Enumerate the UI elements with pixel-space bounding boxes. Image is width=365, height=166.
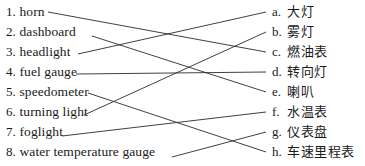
list-item-left-7[interactable]: 7. foglight [6,122,63,142]
list-item-left-1[interactable]: 1. horn [6,2,45,22]
list-item-left-3[interactable]: 3. headlight [6,42,71,62]
left-item-label: horn [19,4,44,19]
left-item-marker: 8. [6,142,16,162]
right-item-marker: c. [272,42,287,62]
list-item-right-d[interactable]: d.转向灯 [272,62,328,82]
right-item-label: 大灯 [287,4,314,19]
left-item-label: dashboard [19,24,75,39]
left-item-marker: 1. [6,2,16,22]
list-item-right-c[interactable]: c.燃油表 [272,42,328,62]
left-item-marker: 4. [6,62,16,82]
right-item-label: 燃油表 [287,44,328,59]
left-item-label: headlight [19,44,70,59]
list-item-left-2[interactable]: 2. dashboard [6,22,76,42]
left-item-marker: 5. [6,82,16,102]
list-item-right-h[interactable]: h.车速里程表 [272,142,355,162]
right-column: a.大灯 b.雾灯 c.燃油表 d.转向灯 e.喇叭 f.水温表 g.仪表盘 h… [272,0,362,166]
list-item-left-8[interactable]: 8. water temperature gauge [6,142,155,162]
list-item-left-4[interactable]: 4. fuel gauge [6,62,77,82]
list-item-right-b[interactable]: b.雾灯 [272,22,314,42]
list-item-right-e[interactable]: e.喇叭 [272,82,314,102]
right-item-marker: f. [272,102,287,122]
right-item-marker: a. [272,2,287,22]
right-item-marker: h. [272,142,287,162]
list-item-right-g[interactable]: g.仪表盘 [272,122,328,142]
left-item-label: foglight [19,124,63,139]
left-item-label: turning light [19,104,87,119]
right-item-marker: b. [272,22,287,42]
right-item-marker: g. [272,122,287,142]
connection-line-8-g[interactable] [172,132,266,157]
left-item-label: fuel gauge [19,64,77,79]
right-item-marker: e. [272,82,287,102]
left-item-marker: 2. [6,22,16,42]
left-item-marker: 7. [6,122,16,142]
right-item-marker: d. [272,62,287,82]
left-item-label: speedometer [19,84,88,99]
right-item-label: 转向灯 [287,64,328,79]
right-item-label: 车速里程表 [287,144,355,159]
list-item-left-6[interactable]: 6. turning light [6,102,88,122]
list-item-right-a[interactable]: a.大灯 [272,2,314,22]
list-item-left-5[interactable]: 5. speedometer [6,82,89,102]
right-item-label: 喇叭 [287,84,314,99]
left-item-marker: 6. [6,102,16,122]
matching-exercise: 1. horn 2. dashboard 3. headlight 4. fue… [0,0,365,166]
left-item-marker: 3. [6,42,16,62]
list-item-right-f[interactable]: f.水温表 [272,102,328,122]
left-item-label: water temperature gauge [19,144,155,159]
left-column: 1. horn 2. dashboard 3. headlight 4. fue… [6,0,186,166]
right-item-label: 雾灯 [287,24,314,39]
right-item-label: 仪表盘 [287,124,328,139]
right-item-label: 水温表 [287,104,328,119]
